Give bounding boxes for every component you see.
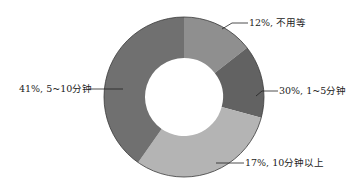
donut-slices xyxy=(104,17,264,177)
slice-label-41-5-10min: 41%, 5~10分钟 xyxy=(19,83,92,95)
donut-slice-2 xyxy=(138,107,261,177)
slice-label-30-1-5min: 30%, 1~5分钟 xyxy=(279,85,346,97)
donut-chart: 12%, 不用等 30%, 1~5分钟 17%, 10分钟以上 41%, 5~1… xyxy=(0,0,357,189)
leader-line-12 xyxy=(222,23,248,29)
slice-label-12-no-wait: 12%, 不用等 xyxy=(249,17,306,29)
slice-label-17-over-10min: 17%, 10分钟以上 xyxy=(245,157,324,169)
